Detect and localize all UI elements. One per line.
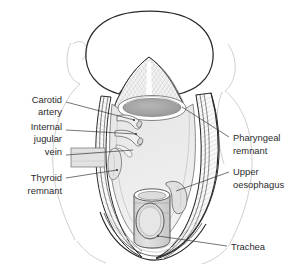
internal-jugular-vein-label-line1: Internal [31,121,62,132]
leader-dot-trachea [157,235,159,237]
upper-oesophagus-label-line1: Upper [233,166,259,177]
left-ear-outline [73,42,87,60]
label-internal-jugular-vein[interactable]: Internal jugular vein [31,121,62,157]
internal-jugular-vein-label-line3: vein [45,146,62,157]
label-upper-oesophagus[interactable]: Upper oesophagus [233,166,284,190]
label-thyroid-remnant[interactable]: Thyroid remnant [28,172,63,196]
pharyngeal-remnant-label-line1: Pharyngeal [233,132,280,143]
thyroid-remnant-label-line1: Thyroid [31,172,62,183]
leader-dot-thyroid [116,169,118,171]
leader-dot-carotid [133,119,135,121]
anatomy-illustration: Carotid artery Internal jugular vein Thy… [0,0,299,270]
trachea-stoma [134,189,170,248]
leader-dot-jugular [135,133,137,135]
lower-torso-left-outline [77,241,106,263]
laryngectomy-anatomy-figure: Carotid artery Internal jugular vein Thy… [0,0,299,270]
pharyngeal-lumen [123,99,181,117]
upper-oesophagus-label-line2: oesophagus [233,179,284,190]
carotid-artery-label-line2: artery [38,106,62,117]
internal-jugular-vein-label-line2: jugular [33,133,62,144]
label-pharyngeal-remnant[interactable]: Pharyngeal remnant [233,132,280,156]
label-trachea[interactable]: Trachea [231,241,266,252]
carotid-artery-label-line1: Carotid [32,94,62,105]
trachea-label-line1: Trachea [231,241,266,252]
left-retracted-strap [71,148,105,167]
label-carotid-artery[interactable]: Carotid artery [32,94,63,117]
thyroid-remnant-label-line2: remnant [28,185,63,196]
lower-torso-right-outline [202,248,227,264]
trachea-top-lumen [138,191,166,199]
pharyngeal-remnant-label-line2: remnant [233,145,268,156]
